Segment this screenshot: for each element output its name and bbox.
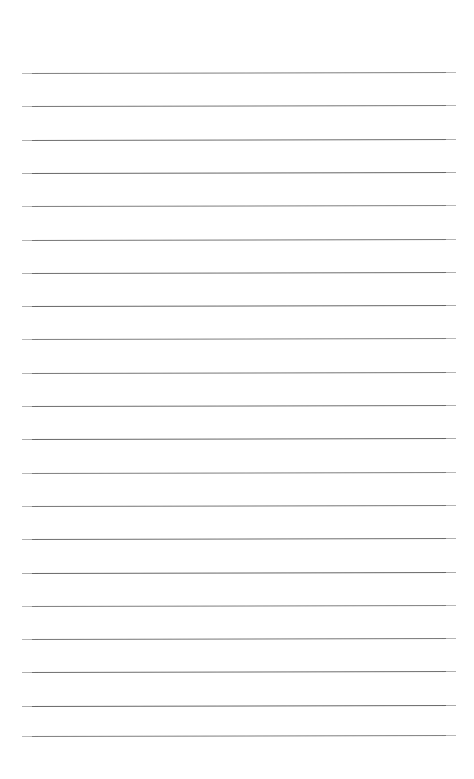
lined-paper-page [0, 0, 474, 779]
page-body-text[interactable] [0, 0, 474, 779]
